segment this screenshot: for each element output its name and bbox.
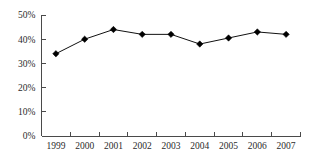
chart-background — [0, 0, 310, 157]
y-tick-label: 0% — [23, 131, 36, 141]
line-chart: 0%10%20%30%40%50% 1999200020012002200320… — [0, 0, 310, 157]
x-tick-label: 2004 — [190, 141, 209, 151]
y-tick-label: 40% — [18, 35, 36, 45]
y-tick-label: 30% — [18, 59, 36, 69]
x-tick-label: 2001 — [104, 141, 123, 151]
x-tick-label: 1999 — [46, 141, 65, 151]
x-tick-label: 2006 — [248, 141, 267, 151]
x-tick-label: 2000 — [75, 141, 94, 151]
x-tick-label: 2007 — [277, 141, 296, 151]
x-tick-label: 2003 — [162, 141, 181, 151]
chart-canvas: 0%10%20%30%40%50% 1999200020012002200320… — [0, 0, 310, 157]
x-tick-label: 2005 — [219, 141, 238, 151]
x-axis-tick-labels: 199920002001200220032004200520062007 — [46, 141, 295, 151]
y-tick-label: 50% — [18, 10, 36, 20]
x-tick-label: 2002 — [133, 141, 152, 151]
y-tick-label: 20% — [18, 83, 36, 93]
y-tick-label: 10% — [18, 107, 36, 117]
